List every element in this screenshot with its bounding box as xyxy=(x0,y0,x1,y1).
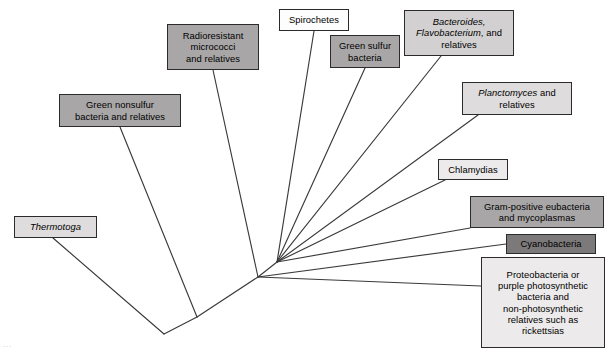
phylogenetic-tree-diagram: ThermotogaGreen nonsulfurbacteria and re… xyxy=(0,0,611,353)
taxon-box-planctomyces: Planctomyces andrelatives xyxy=(462,82,572,115)
taxon-box-proteobacteria: Proteobacteria orpurple photosyntheticba… xyxy=(481,257,605,348)
taxon-box-gram-positive: Gram-positive eubacteriaand mycoplasmas xyxy=(470,196,604,228)
branch-line xyxy=(277,115,478,262)
branch-line xyxy=(277,68,365,262)
taxon-label: Cyanobacteria xyxy=(511,238,591,249)
branch-line xyxy=(277,228,470,262)
scan-corner-artifact: ... xyxy=(3,341,17,349)
taxon-box-radioresistant: Radioresistantmicrococciand relatives xyxy=(167,24,259,70)
taxon-label: Spirochetes xyxy=(284,14,344,25)
taxon-box-chlamydias: Chlamydias xyxy=(438,159,508,180)
taxon-label: Gram-positive eubacteriaand mycoplasmas xyxy=(475,201,599,224)
taxon-label: Radioresistantmicrococciand relatives xyxy=(172,30,254,64)
taxon-label: Green sulfurbacteria xyxy=(335,40,395,63)
taxon-box-spirochetes: Spirochetes xyxy=(279,9,349,31)
taxon-label: Planctomyces andrelatives xyxy=(467,87,567,110)
taxon-label: Proteobacteria orpurple photosyntheticba… xyxy=(486,269,600,337)
branch-line xyxy=(120,127,197,317)
taxon-label: Chlamydias xyxy=(443,164,503,175)
taxon-label: Bacteroides,Flavobacterium, andrelatives xyxy=(409,16,509,50)
branch-line xyxy=(164,317,197,334)
branch-line xyxy=(277,180,445,262)
taxon-label: Thermotoga xyxy=(19,221,92,232)
taxon-box-green-sulfur: Green sulfurbacteria xyxy=(330,35,400,68)
branch-line xyxy=(213,70,258,277)
taxon-box-green-nonsulfur: Green nonsulfurbacteria and relatives xyxy=(59,94,181,127)
branch-line xyxy=(277,31,314,262)
branch-line xyxy=(53,238,164,334)
taxon-label: Green nonsulfurbacteria and relatives xyxy=(64,99,176,122)
taxon-box-bacteroides: Bacteroides,Flavobacterium, andrelatives xyxy=(404,10,514,56)
branch-line xyxy=(197,277,258,317)
branch-line xyxy=(258,277,481,286)
branch-line xyxy=(277,56,441,262)
taxon-box-thermotoga: Thermotoga xyxy=(14,216,97,238)
taxon-box-cyanobacteria: Cyanobacteria xyxy=(506,234,596,254)
